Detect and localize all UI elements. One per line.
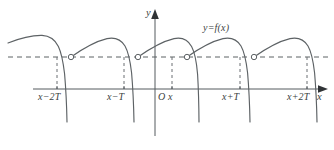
x-axis-label: x	[317, 92, 322, 103]
curve-branch-3	[138, 38, 199, 122]
tick-label-x-minus-T: x−T	[107, 92, 124, 102]
open-point-3	[184, 54, 189, 59]
periodic-function-figure: y x O y=f(x) x−2T x−T x x+T x+2T	[0, 0, 334, 150]
open-point-2	[135, 54, 140, 59]
vertical-droplines	[57, 57, 307, 89]
y-axis-arrowhead	[151, 9, 159, 19]
curve-branch-1	[8, 35, 67, 122]
function-curve	[8, 35, 317, 122]
tick-label-x-minus-2T: x−2T	[38, 92, 61, 102]
curve-branch-2	[71, 38, 134, 122]
y-axis-label: y	[146, 8, 151, 19]
tick-label-x: x	[168, 92, 173, 102]
curve-branch-4	[187, 38, 250, 122]
curve-branch-5	[254, 38, 317, 122]
open-point-1	[68, 54, 73, 59]
tick-label-x-plus-T: x+T	[222, 92, 239, 102]
graph-canvas	[0, 0, 334, 150]
origin-label: O	[158, 92, 165, 102]
curve-equation-label: y=f(x)	[203, 23, 229, 33]
open-point-4	[251, 54, 256, 59]
tick-label-x-plus-2T: x+2T	[287, 92, 310, 102]
